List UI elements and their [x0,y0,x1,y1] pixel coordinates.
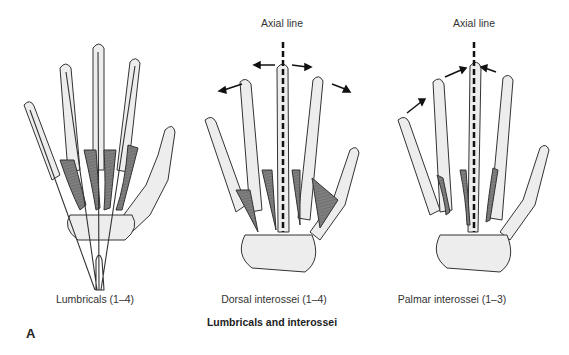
lumbricals-hand [24,44,175,290]
axial-line-label-palmar: Axial line [453,17,495,29]
caption-palmar-interossei: Palmar interossei (1–3) [398,293,507,305]
figure-title: Lumbricals and interossei [207,316,337,328]
caption-lumbricals: Lumbricals (1–4) [56,293,134,305]
panel-letter: A [26,326,35,341]
axial-line-label-dorsal: Axial line [261,17,303,29]
caption-dorsal-interossei: Dorsal interossei (1–4) [221,293,327,305]
palmar-interossei-hand [398,62,549,272]
adduction-arrows [407,65,496,113]
